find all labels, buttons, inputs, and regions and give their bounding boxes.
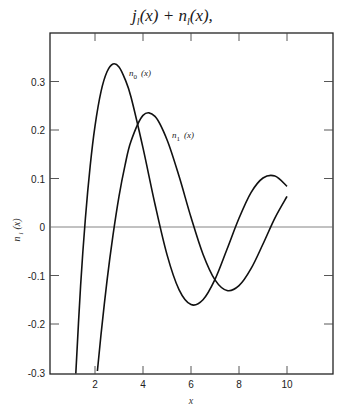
x-axis-ticks: 246810 — [92, 33, 293, 390]
x-tick-label: 8 — [236, 379, 242, 390]
y-tick-label: 0 — [39, 222, 45, 233]
chart-plot-area: 246810 0.30.20.10-0.1-0.2-0.3 n0(x) n1(x… — [0, 0, 345, 411]
y-tick-label: 0.3 — [31, 77, 45, 88]
curve-n0 — [76, 64, 287, 374]
curve-n1 — [97, 113, 287, 371]
y-tick-label: -0.3 — [28, 368, 46, 379]
x-tick-label: 10 — [281, 379, 293, 390]
x-tick-label: 2 — [92, 379, 98, 390]
y-axis-ticks: 0.30.20.10-0.1-0.2-0.3 — [28, 77, 333, 379]
x-axis-title: x — [188, 395, 194, 406]
x-tick-label: 6 — [188, 379, 194, 390]
y-tick-label: -0.1 — [28, 271, 46, 282]
curve-label-n1: n1(x) — [172, 130, 194, 143]
curve-label-n0: n0(x) — [129, 68, 151, 81]
y-tick-label: 0.1 — [31, 174, 45, 185]
y-tick-label: 0.2 — [31, 125, 45, 136]
y-axis-title: nl(x) — [11, 218, 25, 242]
plot-frame — [50, 33, 333, 374]
x-tick-label: 4 — [140, 379, 146, 390]
y-tick-label: -0.2 — [28, 319, 46, 330]
